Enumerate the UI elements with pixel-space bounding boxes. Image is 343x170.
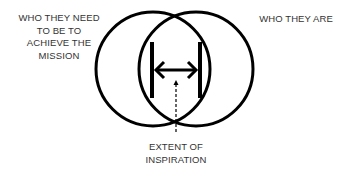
label-line: MISSION	[14, 50, 104, 63]
label-who-they-are: WHO THEY ARE	[251, 13, 341, 26]
label-line: INSPIRATION	[126, 154, 226, 167]
label-line: ACHIEVE THE	[14, 37, 104, 50]
label-line: EXTENT OF	[126, 141, 226, 154]
double-arrow-icon	[156, 62, 196, 78]
dashed-pointer-arrow	[174, 80, 179, 133]
label-line: WHO THEY NEED	[14, 12, 104, 25]
label-line: TO BE TO	[14, 25, 104, 38]
label-who-they-need-to-be: WHO THEY NEED TO BE TO ACHIEVE THE MISSI…	[14, 12, 104, 62]
label-extent-of-inspiration: EXTENT OF INSPIRATION	[126, 141, 226, 166]
